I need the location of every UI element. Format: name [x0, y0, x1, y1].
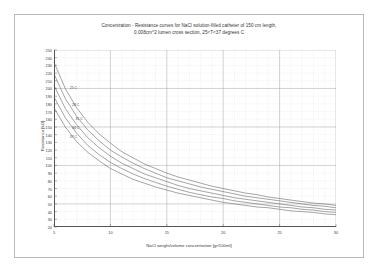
- series-curve: [54, 97, 336, 212]
- series-inline-label: 25 C: [70, 86, 77, 90]
- y-tick-label: 40: [48, 209, 52, 214]
- y-tick-label: 150: [46, 124, 53, 129]
- y-tick-label: 130: [46, 140, 53, 145]
- x-tick-label: 5: [53, 230, 55, 235]
- y-tick-label: 60: [48, 194, 52, 199]
- series-curve: [54, 62, 336, 205]
- y-tick-label: 250: [46, 48, 53, 53]
- series-inline-label: 31 C: [75, 117, 82, 121]
- x-tick-label: 15: [165, 230, 169, 235]
- x-tick-label: 10: [108, 230, 112, 235]
- y-tick-label: 90: [48, 171, 52, 176]
- y-tick-label: 110: [46, 155, 52, 160]
- y-tick-label: 230: [46, 63, 53, 68]
- series-inline-label: 28 C: [72, 103, 79, 107]
- series-curve: [54, 108, 336, 215]
- chart-title-line1: Concentration - Resistance curves for Na…: [101, 23, 276, 28]
- y-tick-label: 240: [46, 55, 53, 60]
- y-tick-label: 200: [46, 86, 53, 91]
- y-tick-label: 120: [46, 148, 53, 153]
- y-tick-label: 30: [48, 217, 52, 222]
- y-tick-label: 20: [48, 225, 52, 230]
- y-tick-label: 70: [48, 186, 52, 191]
- x-tick-label: 25: [277, 230, 281, 235]
- y-tick-label: 140: [46, 132, 53, 137]
- y-tick-label: 180: [46, 101, 53, 106]
- y-tick-label: 220: [46, 71, 53, 76]
- plot-area: 2030405060708090100110120130140150160170…: [54, 50, 336, 227]
- figure-frame: Concentration - Resistance curves for Na…: [14, 14, 364, 258]
- x-tick-label: 20: [221, 230, 225, 235]
- series-curve: [54, 85, 336, 210]
- y-tick-label: 50: [48, 201, 52, 206]
- y-axis-label: Resistance [kO]: [40, 121, 45, 151]
- chart-title-line2: 0.008cm^2 lumen cross section, 25<T<37 d…: [15, 29, 363, 36]
- chart-title: Concentration - Resistance curves for Na…: [15, 22, 363, 37]
- series-inline-label: 34 C: [72, 126, 79, 130]
- curve-lines: [54, 50, 336, 227]
- series-curve: [54, 74, 336, 208]
- x-axis-label: NaCl weight/volume concentration [gr/100…: [15, 243, 363, 248]
- y-tick-label: 210: [46, 78, 53, 83]
- x-tick-label: 30: [334, 230, 338, 235]
- y-tick-label: 190: [46, 94, 53, 99]
- y-tick-label: 160: [46, 117, 53, 122]
- y-tick-label: 100: [46, 163, 53, 168]
- y-tick-label: 170: [46, 109, 53, 114]
- series-inline-label: 37 C: [70, 135, 77, 139]
- y-tick-label: 80: [48, 178, 52, 183]
